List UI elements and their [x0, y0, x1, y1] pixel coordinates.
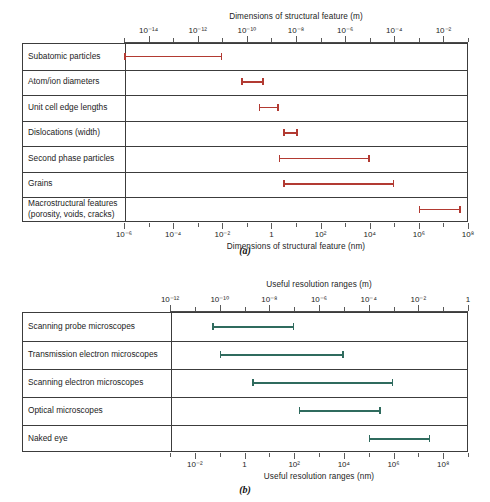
row-label: Subatomic particles [28, 51, 100, 62]
bottom-tick-label: 10⁻² [215, 230, 231, 240]
range-cap-left [252, 379, 254, 386]
bottom-tick-label: 10⁸ [437, 460, 449, 470]
top-axis-tick [418, 305, 419, 311]
row-separator [23, 146, 467, 147]
bottom-axis-tick [369, 453, 370, 457]
top-axis-title: Dimensions of structural feature (m) [124, 12, 468, 21]
row-label: Transmission electron microscopes [28, 349, 158, 360]
range-bar [283, 132, 298, 134]
bottom-axis-tick [222, 223, 223, 229]
bottom-tick-label: 10⁶ [413, 230, 425, 240]
range-bar [220, 354, 344, 356]
top-tick-label: 10⁻¹² [189, 26, 207, 36]
top-axis-tick [195, 307, 196, 311]
bottom-tick-label: 10⁻⁴ [165, 230, 181, 240]
top-tick-label: 1 [466, 295, 470, 305]
top-tick-label: 10⁻¹² [161, 295, 179, 305]
row-separator [23, 369, 467, 370]
range-cap-left [124, 53, 126, 60]
range-cap-left [241, 78, 243, 85]
top-axis-tick [419, 38, 420, 42]
range-cap-right [429, 435, 431, 442]
caption-a: (a) [0, 245, 490, 256]
row-separator [23, 121, 467, 122]
bottom-tick-label: 10⁸ [462, 230, 474, 240]
top-axis-tick [269, 305, 270, 311]
row-label: Second phase particles [28, 153, 114, 164]
top-axis-tick [443, 36, 444, 42]
top-tick-label: 10⁻⁴ [360, 295, 376, 305]
top-axis-tick [170, 305, 171, 311]
bottom-axis-tick [173, 223, 174, 229]
row-label: Scanning electron microscopes [28, 377, 143, 388]
range-bar [252, 382, 394, 384]
range-cap-left [212, 323, 214, 330]
top-tick-label: 10⁻¹⁰ [238, 26, 257, 36]
top-tick-label: 10⁻¹⁰ [210, 295, 229, 305]
top-axis-tick [173, 38, 174, 42]
bottom-axis-tick [344, 453, 345, 459]
bottom-tick-label: 10⁶ [387, 460, 399, 470]
range-cap-left [279, 155, 281, 162]
top-tick-label: 10⁻¹⁴ [139, 26, 158, 36]
bottom-axis-tick [319, 453, 320, 457]
bottom-axis-tick [124, 223, 125, 229]
top-axis-title: Useful resolution ranges (m) [170, 280, 468, 289]
bottom-axis-tick [394, 453, 395, 459]
bottom-axis-tick [247, 223, 248, 227]
bottom-axis-tick [345, 223, 346, 227]
range-cap-right [393, 180, 395, 187]
top-tick-label: 10⁻² [436, 26, 452, 36]
bottom-axis-tick [269, 453, 270, 457]
range-cap-right [392, 379, 394, 386]
bottom-tick-label: 10⁴ [338, 460, 350, 470]
bottom-axis-tick [271, 223, 272, 229]
row-label: Optical microscopes [28, 405, 103, 416]
range-cap-left [369, 435, 371, 442]
range-bar [283, 183, 394, 185]
top-axis-tick [321, 38, 322, 42]
bottom-axis-tick [245, 453, 246, 459]
range-cap-right [368, 155, 370, 162]
range-cap-right [221, 53, 223, 60]
range-cap-right [342, 351, 344, 358]
label-column-divider [171, 313, 172, 451]
bottom-axis-tick [370, 223, 371, 229]
range-bar [124, 56, 222, 58]
top-tick-label: 10⁻⁸ [288, 26, 304, 36]
row-label: Dislocations (width) [28, 127, 100, 138]
top-axis-tick [394, 307, 395, 311]
bottom-tick-label: 10² [288, 460, 300, 470]
range-cap-right [262, 78, 264, 85]
top-tick-label: 10⁻⁴ [386, 26, 402, 36]
top-axis-tick [468, 305, 469, 311]
range-bar [212, 326, 294, 328]
row-separator [23, 397, 467, 398]
bottom-tick-label: 1 [242, 460, 246, 470]
top-axis-tick [247, 36, 248, 42]
top-axis-tick [468, 38, 469, 42]
bottom-axis-tick [468, 223, 469, 229]
top-axis-tick [369, 305, 370, 311]
range-cap-right [296, 129, 298, 136]
top-axis-tick [271, 38, 272, 42]
bottom-tick-label: 10² [315, 230, 327, 240]
row-separator [23, 172, 467, 173]
bottom-axis-tick [321, 223, 322, 229]
range-cap-left [299, 407, 301, 414]
row-separator [23, 70, 467, 71]
range-cap-right [379, 407, 381, 414]
top-axis-tick [319, 305, 320, 311]
range-bar [299, 410, 381, 412]
range-cap-right [293, 323, 295, 330]
row-label: Atom/ion diameters [28, 76, 99, 87]
bottom-axis-tick [443, 453, 444, 459]
bottom-axis-tick [418, 453, 419, 457]
range-cap-left [419, 206, 421, 213]
top-axis-tick [149, 36, 150, 42]
range-cap-right [277, 104, 279, 111]
top-tick-label: 10⁻⁶ [311, 295, 327, 305]
bottom-tick-label: 1 [269, 230, 273, 240]
row-separator [23, 95, 467, 96]
top-axis-tick [344, 307, 345, 311]
